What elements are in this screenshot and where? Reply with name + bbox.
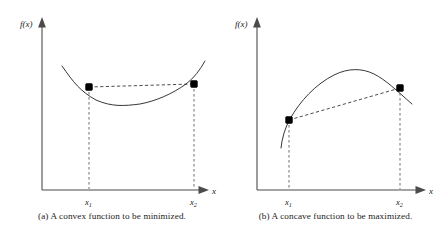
panel-a-caption: (a) A convex function to be minimized.: [0, 211, 224, 221]
y-axis-arrowhead: [253, 17, 261, 28]
tick-label-x2: x2: [189, 197, 197, 208]
tick-label-x1: x1: [284, 197, 292, 208]
panel-concave: f(x) x x1 x2 (b) A concave function to b…: [224, 0, 447, 240]
chord-line: [89, 84, 194, 87]
y-axis-arrowhead: [38, 17, 46, 28]
marker-point-x2: [191, 81, 198, 88]
panel-b-caption: (b) A concave function to be maximized.: [224, 211, 447, 221]
figure-root: f(x) x x1 x2 (a) A convex function to be…: [0, 0, 447, 240]
concave-curve: [281, 70, 412, 148]
marker-point-x1: [286, 117, 293, 124]
tick-label-x1: x1: [84, 197, 92, 208]
y-axis-label: f(x): [20, 19, 33, 29]
x-axis-arrowhead: [416, 186, 427, 194]
concave-function-plot: f(x) x x1 x2: [224, 0, 447, 210]
x-axis-label: x: [211, 186, 216, 196]
x-axis-label: x: [428, 186, 433, 196]
y-axis-label: f(x): [235, 19, 248, 29]
chord-line: [289, 88, 400, 120]
marker-point-x2: [397, 85, 404, 92]
panel-convex: f(x) x x1 x2 (a) A convex function to be…: [0, 0, 224, 240]
convex-curve: [62, 61, 205, 105]
x-axis-arrowhead: [199, 186, 210, 194]
tick-label-x2: x2: [395, 197, 403, 208]
marker-point-x1: [86, 84, 93, 91]
convex-function-plot: f(x) x x1 x2: [0, 0, 224, 210]
